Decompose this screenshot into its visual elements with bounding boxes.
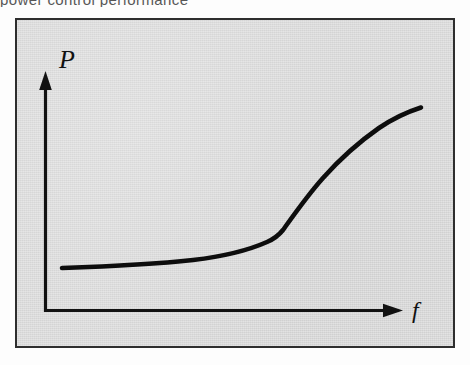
x-axis-arrowhead bbox=[383, 304, 403, 317]
scanned-page: power control performance P f bbox=[0, 0, 470, 365]
y-axis-label: P bbox=[58, 45, 75, 74]
figure-frame: P f bbox=[15, 18, 455, 348]
power-frequency-curve bbox=[62, 108, 421, 269]
pf-curve-chart: P f bbox=[17, 20, 453, 346]
x-axis-label: f bbox=[412, 297, 422, 323]
y-axis-arrowhead bbox=[39, 71, 52, 90]
caption-text-clipped: power control performance bbox=[0, 0, 300, 7]
